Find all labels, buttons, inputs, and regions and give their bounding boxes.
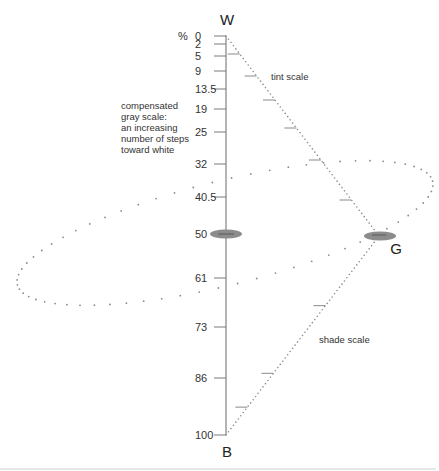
ellipse-dot	[422, 202, 424, 204]
tint-scale-dot	[339, 184, 341, 186]
ellipse-dot	[218, 287, 220, 289]
tint-scale-dot	[270, 93, 272, 95]
ellipse-dot	[179, 295, 181, 297]
tint-scale-dot	[309, 145, 311, 147]
ellipse-dot	[426, 172, 428, 174]
shade-scale-dot	[247, 405, 249, 407]
gray-scale-tick-label: 100	[195, 429, 213, 441]
tint-scale-dot	[245, 61, 247, 63]
ellipse-dot	[269, 169, 271, 171]
shade-scale-dot	[297, 341, 299, 343]
gray-scale-tick-label: 50	[195, 228, 207, 240]
ellipse-dot	[382, 160, 384, 162]
shade-scale-dot	[302, 335, 304, 337]
ellipse-dot	[16, 279, 18, 281]
shade-scale-dot	[326, 303, 328, 305]
ellipse-dot	[212, 182, 214, 184]
gray-scale-tick-label: 73	[195, 321, 207, 333]
ellipse-dot	[275, 272, 277, 274]
ellipse-dot	[413, 166, 415, 168]
note-line: an increasing	[121, 122, 178, 133]
note-line: number of steps	[121, 133, 189, 144]
shade-scale-dot	[252, 399, 254, 401]
ellipse-dot	[41, 250, 43, 252]
shade-scale-dot	[262, 386, 264, 388]
tint-scale-dot	[317, 155, 319, 157]
ellipse-dot	[397, 221, 399, 223]
tint-scale-dot	[250, 67, 252, 69]
ellipse-dot	[293, 267, 295, 269]
ellipse-dot	[126, 302, 128, 304]
tint-scale-dot	[287, 116, 289, 118]
ellipse-dot	[79, 304, 81, 306]
gray-pole-label: G	[390, 240, 402, 257]
shade-scale-dot	[358, 261, 360, 263]
tint-scale-dot	[282, 109, 284, 111]
ellipse-dot	[66, 304, 68, 306]
shade-scale-dot	[321, 309, 323, 311]
shade-scale-dot	[361, 258, 363, 260]
ellipse-dot	[89, 223, 91, 225]
tint-scale-dot	[304, 138, 306, 140]
ellipse-dot	[54, 303, 56, 305]
tint-scale-dot	[297, 129, 299, 131]
ellipse-dot	[432, 185, 434, 187]
compensated-gray-scale-note: compensated gray scale: an increasing nu…	[121, 100, 189, 155]
ellipse-dot	[75, 230, 77, 232]
tint-scale-dot	[255, 74, 257, 76]
shade-scale-dot	[238, 418, 240, 420]
tint-scale-dot	[314, 151, 316, 153]
shade-scale-dot	[257, 392, 259, 394]
tint-scale-dot	[363, 216, 365, 218]
ellipse-dot	[231, 177, 233, 179]
ellipse-dot	[323, 162, 325, 164]
ellipse-dot	[155, 198, 157, 200]
tint-scale-dot	[326, 167, 328, 169]
ellipse-dot	[430, 176, 432, 178]
tint-scale-dot	[279, 106, 281, 108]
ellipse-dot	[33, 256, 35, 258]
ellipse-dot	[143, 300, 145, 302]
shade-scale-dot	[349, 274, 351, 276]
ellipse-dot	[26, 262, 28, 264]
tint-scale-dot	[262, 84, 264, 86]
ellipse-dot	[305, 164, 307, 166]
shade-scale-dot	[294, 344, 296, 346]
tint-scale-dot	[228, 38, 230, 40]
shade-scale-dot	[334, 293, 336, 295]
percent-symbol: %	[178, 30, 188, 42]
ellipse-dot	[161, 298, 163, 300]
ellipse-dot	[404, 163, 406, 165]
tint-scale-dot	[260, 80, 262, 82]
ellipse-dot	[18, 274, 20, 276]
ellipse-dot	[109, 304, 111, 306]
tint-scale-dot	[277, 103, 279, 105]
shade-scale-dot	[225, 434, 227, 436]
black-pole-label: B	[222, 443, 232, 460]
tint-scale-dot	[354, 203, 356, 205]
tint-scale-dot	[235, 48, 237, 50]
tint-scale-dot	[284, 113, 286, 115]
ellipse-dot	[250, 173, 252, 175]
white-pole-label: W	[220, 11, 235, 28]
tint-scale-dot	[356, 206, 358, 208]
tint-scale-dot	[257, 77, 259, 79]
ellipse-dot	[431, 191, 433, 193]
shade-scale-dot	[336, 290, 338, 292]
ellipse-dot	[420, 169, 422, 171]
ellipse-dot	[21, 268, 23, 270]
shade-scale-dot	[307, 328, 309, 330]
tint-scale-dot	[358, 209, 360, 211]
tint-scale-label: tint scale	[271, 71, 309, 82]
tint-scale-dot	[247, 64, 249, 66]
shade-scale-dot	[356, 264, 358, 266]
gray-scale-diagram: 025913.519253240.550617386100 W B G % co…	[0, 0, 439, 471]
shade-scale-dot	[371, 245, 373, 247]
ellipse-dot	[17, 284, 19, 286]
ellipse-dot	[328, 254, 330, 256]
shade-scale-dot	[270, 376, 272, 378]
ellipse-dot	[104, 217, 106, 219]
ellipse-dot	[19, 288, 21, 290]
shade-scale-dot	[279, 364, 281, 366]
ellipse-dot	[394, 162, 396, 164]
